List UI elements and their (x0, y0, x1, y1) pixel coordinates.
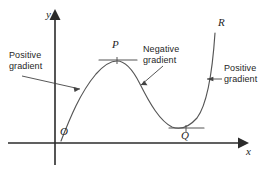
point-label-p: P (112, 38, 119, 50)
annotation-positive-left-line1: Positive (9, 50, 42, 61)
annotation-negative-middle: Negative gradient (143, 44, 179, 65)
annotation-negative-middle-line2: gradient (143, 55, 179, 66)
y-axis-label: y (46, 8, 51, 20)
gradient-diagram: y x O P Q R Positive gradient Negative g… (0, 0, 277, 170)
annotation-positive-left: Positive gradient (9, 50, 42, 71)
annotation-negative-middle-line1: Negative (143, 44, 179, 55)
leader-arrowhead-middle (141, 81, 148, 86)
leader-line-left (22, 76, 80, 89)
function-curve (61, 33, 215, 141)
point-label-r: R (218, 16, 225, 28)
diagram-canvas (0, 0, 277, 170)
x-axis-label: x (246, 145, 251, 157)
annotation-positive-left-line2: gradient (9, 61, 42, 72)
point-label-q: Q (181, 129, 189, 141)
y-axis-arrowhead (50, 9, 61, 20)
annotation-positive-right: Positive gradient (224, 63, 257, 84)
point-label-o: O (60, 125, 68, 137)
annotation-positive-right-line2: gradient (224, 74, 257, 85)
annotation-positive-right-line1: Positive (224, 63, 257, 74)
